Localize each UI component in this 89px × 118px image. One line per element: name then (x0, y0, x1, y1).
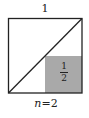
n-value-label: n=2 (28, 98, 64, 110)
n-value: 2 (51, 97, 58, 110)
fraction-numerator: 1 (59, 62, 69, 71)
unit-square-diagram: 1 1 2 n=2 (0, 0, 89, 118)
shaded-fraction-label: 1 2 (59, 62, 69, 83)
equals-sign: = (41, 97, 50, 110)
fraction-denominator: 2 (59, 74, 69, 83)
side-length-label: 1 (40, 3, 50, 15)
